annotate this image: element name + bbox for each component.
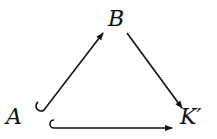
diagram-arrows <box>0 0 217 139</box>
arrow-b-to-k <box>127 33 182 108</box>
arrow-a-to-b <box>36 33 103 111</box>
arrow-a-to-k <box>50 120 172 128</box>
